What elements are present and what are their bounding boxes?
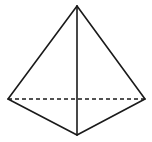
edge-apex-right bbox=[77, 6, 145, 99]
edge-right-front bbox=[77, 99, 145, 135]
tetrahedron-figure bbox=[0, 0, 152, 142]
edge-left-front bbox=[8, 99, 77, 135]
edge-apex-left bbox=[8, 6, 77, 99]
tetrahedron-drawing bbox=[0, 0, 152, 142]
